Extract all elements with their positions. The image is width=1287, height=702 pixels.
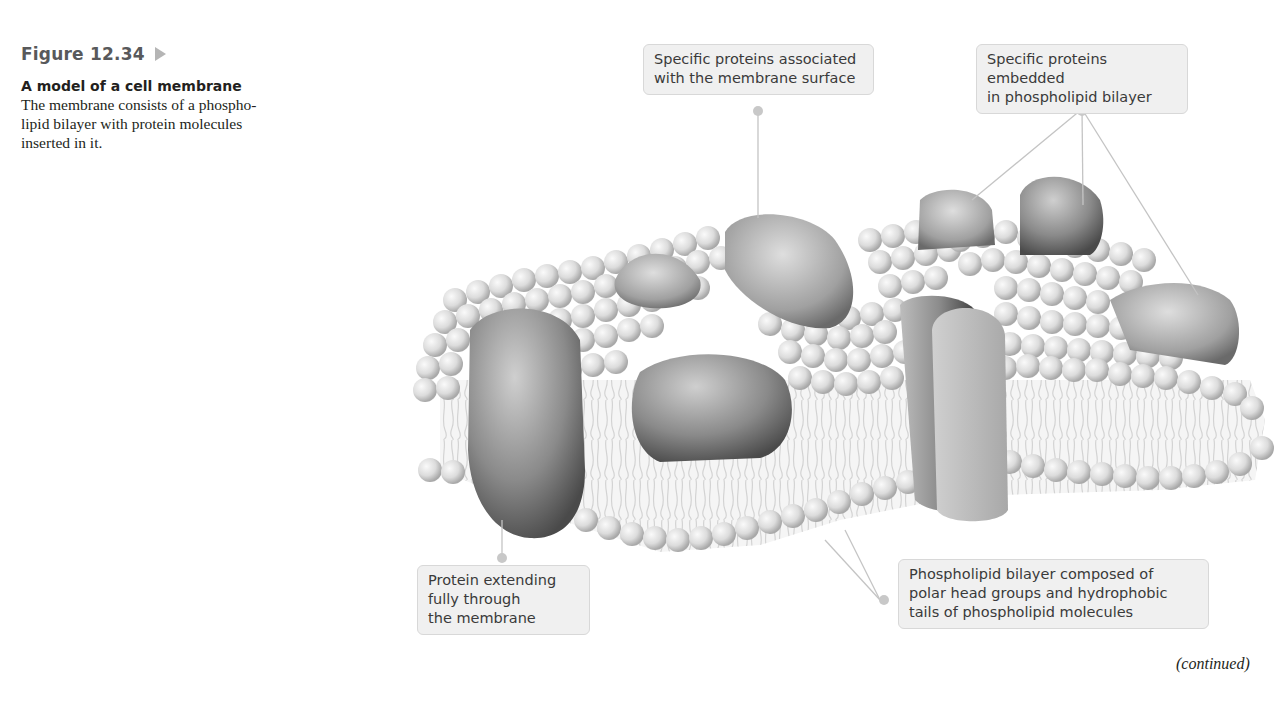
figure-number: Figure 12.34 (21, 44, 401, 64)
embedded-protein-middle (1020, 177, 1103, 255)
label-embedded-proteins: Specific proteins embedded in phospholip… (976, 44, 1188, 114)
label-phospholipid-bilayer: Phospholipid bilayer composed of polar h… (898, 559, 1209, 629)
channel-protein-light (932, 308, 1008, 521)
surface-protein-top (725, 214, 853, 328)
figure-title: A model of a cell membrane (21, 78, 401, 94)
triangle-right-icon (155, 47, 166, 61)
continued-note: (continued) (1176, 655, 1250, 673)
transmembrane-protein (468, 309, 585, 539)
figure-caption: Figure 12.34 A model of a cell membrane … (21, 44, 401, 152)
figure-description: The membrane consists of a phospho- lipi… (21, 95, 316, 152)
label-transmembrane-protein: Protein extending fully through the memb… (417, 565, 590, 635)
label-surface-proteins: Specific proteins associated with the me… (643, 44, 874, 95)
embedded-protein-left (918, 190, 995, 250)
embedded-protein-center (632, 354, 792, 462)
